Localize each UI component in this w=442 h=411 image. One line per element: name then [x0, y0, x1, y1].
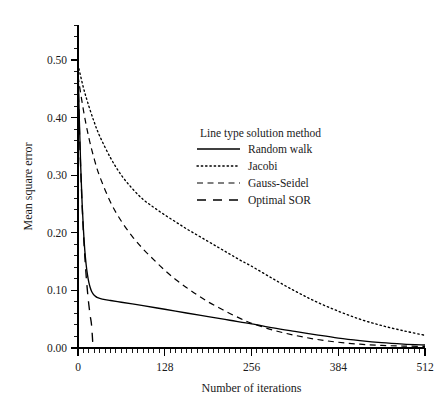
y-axis-title: Mean square error [21, 143, 35, 231]
legend: Line type solution methodRandom walkJaco… [197, 127, 321, 207]
x-tick-label: 128 [156, 361, 174, 373]
y-tick-label: 0.50 [47, 54, 67, 66]
x-axis-title: Number of iterations [202, 381, 302, 395]
legend-label-jacobi: Jacobi [248, 160, 277, 172]
legend-label-random-walk: Random walk [248, 143, 312, 155]
chart-canvas: 0.000.100.200.300.400.500128256384512 Nu… [0, 0, 442, 411]
legend-label-gauss-seidel: Gauss-Seidel [248, 177, 309, 189]
y-tick-label: 0.30 [47, 169, 67, 181]
series-line-optimal-sor [78, 77, 93, 345]
y-tick-label: 0.10 [47, 284, 67, 296]
x-tick-label: 0 [75, 361, 81, 373]
legend-label-optimal-sor: Optimal SOR [248, 194, 311, 207]
y-tick-label: 0.40 [47, 112, 67, 124]
series-line-gauss-seidel [78, 76, 425, 346]
x-tick-label: 384 [330, 361, 348, 373]
x-tick-label: 256 [243, 361, 261, 373]
x-tick-label: 512 [416, 361, 434, 373]
axes-group: 0.000.100.200.300.400.500128256384512 [47, 25, 434, 373]
legend-title: Line type solution method [200, 127, 321, 140]
y-tick-label: 0.20 [47, 227, 67, 239]
y-tick-label: 0.00 [47, 342, 67, 354]
chart-figure: 0.000.100.200.300.400.500128256384512 Nu… [0, 0, 442, 411]
